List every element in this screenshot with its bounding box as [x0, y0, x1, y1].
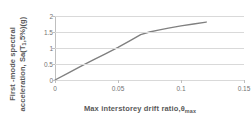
y-axis-tick-label: 1 [36, 45, 53, 52]
y-axis-tick-label: 0.5 [36, 61, 53, 68]
gridline-y [55, 48, 244, 49]
y-axis-title-line2-a: acceleration, Sa(T [18, 45, 27, 111]
x-axis-title-main: Max interstorey drift ratio,θ [84, 104, 185, 113]
x-axis-tickmark [55, 80, 56, 83]
gridline-y [55, 80, 244, 81]
x-axis-title-sub: max [185, 108, 196, 114]
y-axis-title-line2: acceleration, Sa(T1,5%)(g) [18, 0, 29, 127]
plot-area [55, 16, 244, 80]
y-axis-tickmark [52, 64, 55, 65]
x-axis-tick-label: 0 [53, 85, 57, 93]
gridline-y [55, 16, 244, 17]
y-axis-tick-label: 1.5 [36, 29, 53, 36]
y-axis-tickmark [52, 48, 55, 49]
x-axis-tickmark [118, 80, 119, 83]
y-axis-tickmark [52, 32, 55, 33]
x-axis-tick-labels: 00.050.10.15 [55, 85, 244, 95]
chart-figure: First -mode spectral acceleration, Sa(T1… [0, 0, 252, 127]
x-axis-title: Max interstorey drift ratio,θmax [36, 104, 244, 113]
x-axis-tick-label: 0.05 [112, 85, 125, 93]
y-axis-tickmark [52, 16, 55, 17]
y-axis-title-line2-sub: 1 [21, 42, 27, 45]
y-axis-tick-label: 2 [36, 13, 53, 20]
x-axis-tickmark [181, 80, 182, 83]
x-axis-tick-label: 0.1 [176, 85, 185, 93]
x-axis-tickmark [244, 80, 245, 83]
gridline-y [55, 64, 244, 65]
gridline-y [55, 32, 244, 33]
y-axis-tick-labels: 00.511.52 [36, 10, 53, 84]
y-axis-title-line2-b: ,5%)(g) [18, 16, 27, 42]
y-axis-title-line1: First -mode spectral [8, 0, 18, 127]
y-axis-title: First -mode spectral acceleration, Sa(T1… [0, 0, 36, 127]
x-axis-tick-label: 0.15 [238, 85, 251, 93]
y-axis-tick-label: 0 [36, 77, 53, 84]
